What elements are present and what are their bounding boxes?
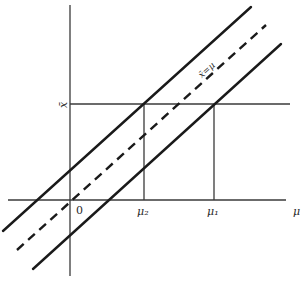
origin-label: 0 <box>76 204 83 217</box>
identity-line-label: x̄=μ <box>196 60 217 80</box>
horizontal-axis-label: μ <box>293 205 300 218</box>
vertical-axis-label: x̄ <box>57 101 70 108</box>
diagram-canvas: x̄ 0 μ₂ μ₁ μ x̄=μ <box>0 0 304 281</box>
mu2-tick-label: μ₂ <box>137 205 149 218</box>
mu1-tick-label: μ₁ <box>207 205 219 218</box>
